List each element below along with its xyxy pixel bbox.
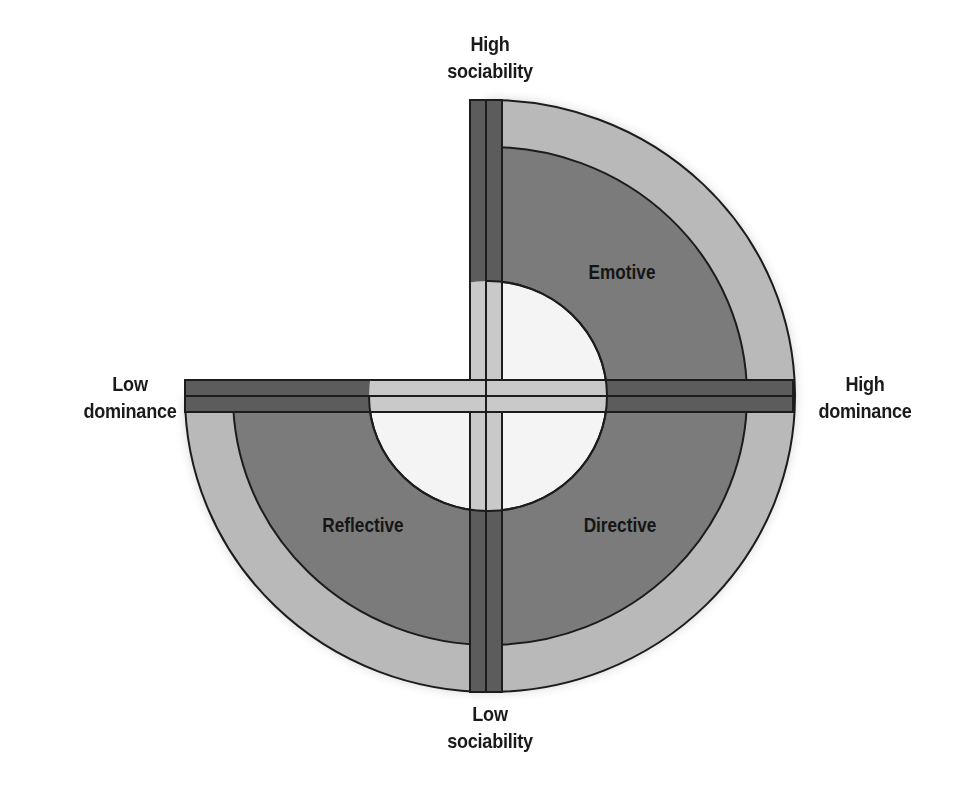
label-line: sociability bbox=[430, 57, 550, 84]
label-line: sociability bbox=[430, 727, 550, 754]
quadrant-label-emotive: Emotive bbox=[589, 261, 656, 284]
quadrant-label-directive: Directive bbox=[584, 514, 657, 537]
axis-label-high-sociability: High sociability bbox=[430, 30, 550, 84]
label-line: Low bbox=[430, 700, 550, 727]
label-line: dominance bbox=[805, 397, 925, 424]
top-left-blank bbox=[360, 270, 486, 396]
label-line: High bbox=[430, 30, 550, 57]
label-line: Low bbox=[70, 370, 190, 397]
axis-label-high-dominance: High dominance bbox=[805, 370, 925, 424]
axis-label-low-dominance: Low dominance bbox=[70, 370, 190, 424]
quadrant-label-reflective: Reflective bbox=[322, 514, 403, 537]
label-line: High bbox=[805, 370, 925, 397]
axis-label-low-sociability: Low sociability bbox=[430, 700, 550, 754]
label-line: dominance bbox=[70, 397, 190, 424]
